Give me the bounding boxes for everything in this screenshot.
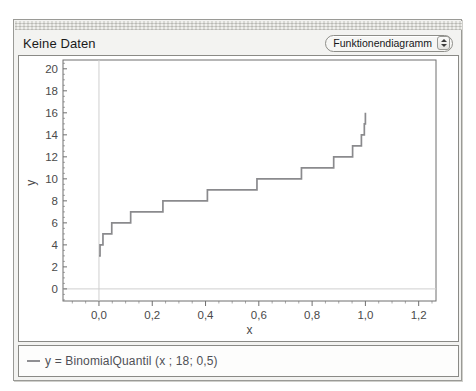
x-axis-tick-label: 0,8 — [304, 309, 320, 321]
x-axis-tick-label: 0,0 — [91, 309, 107, 321]
window-header: Keine Daten Funktionendiagramm — [18, 31, 459, 55]
screenshot-root: Keine Daten Funktionendiagramm 024681012… — [0, 0, 476, 391]
x-axis-tick-label: 0,2 — [144, 309, 160, 321]
y-axis-tick-label: 4 — [52, 239, 59, 251]
y-axis-tick-label: 10 — [45, 173, 58, 185]
y-axis-tick-label: 14 — [45, 129, 58, 141]
window-grab-strip[interactable] — [15, 21, 462, 30]
legend-panel: y = BinomialQuantil (x ; 18; 0,5) — [18, 345, 459, 377]
x-axis-tick-label: 0,4 — [198, 309, 215, 321]
stepper-arrows-icon[interactable] — [437, 36, 450, 50]
y-axis-tick-label: 20 — [45, 63, 58, 75]
y-axis-tick-label: 18 — [45, 85, 58, 97]
diagram-type-select-value: Funktionendiagramm — [333, 36, 432, 51]
legend-entry-label: y = BinomialQuantil (x ; 18; 0,5) — [45, 354, 218, 368]
y-axis-tick-label: 0 — [52, 283, 58, 295]
plot-frame — [63, 60, 436, 301]
x-axis-title: x — [247, 323, 253, 337]
triangle-up-icon — [441, 39, 447, 42]
diagram-window: Keine Daten Funktionendiagramm 024681012… — [13, 19, 462, 381]
function-plot: 02468101214161820y0,00,20,40,60,81,01,2x — [19, 56, 458, 341]
y-axis-title: y — [24, 180, 38, 186]
y-axis-tick-label: 12 — [45, 151, 58, 163]
x-axis-tick-label: 1,2 — [411, 309, 427, 321]
y-axis-tick-label: 2 — [52, 261, 58, 273]
plot-panel[interactable]: 02468101214161820y0,00,20,40,60,81,01,2x — [18, 55, 459, 342]
data-series-line — [99, 113, 365, 256]
x-axis-tick-label: 1,0 — [357, 309, 373, 321]
y-axis-tick-label: 6 — [52, 217, 58, 229]
legend-swatch-icon — [27, 360, 40, 362]
triangle-down-icon — [441, 44, 447, 47]
x-axis-tick-label: 0,6 — [251, 309, 267, 321]
diagram-type-select[interactable]: Funktionendiagramm — [325, 35, 453, 52]
y-axis-tick-label: 8 — [52, 195, 58, 207]
page-title: Keine Daten — [18, 36, 96, 51]
y-axis-tick-label: 16 — [45, 107, 58, 119]
